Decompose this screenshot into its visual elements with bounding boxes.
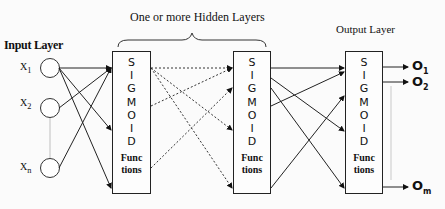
input-label-xn: Xn bbox=[20, 161, 31, 175]
letter: D bbox=[248, 135, 256, 148]
letter: M bbox=[359, 96, 369, 109]
hidden-layers-brace bbox=[118, 33, 266, 47]
letter: G bbox=[127, 82, 136, 95]
letter: O bbox=[360, 109, 369, 122]
letter: I bbox=[130, 122, 133, 135]
output-label-o1: O1 bbox=[412, 58, 429, 76]
letter: G bbox=[360, 82, 369, 95]
letter: D bbox=[360, 135, 368, 148]
letter: M bbox=[127, 96, 137, 109]
hidden-layer-1-box: S I G M O I D Functions bbox=[112, 51, 151, 194]
letter: D bbox=[127, 135, 135, 148]
input-label-x2: X2 bbox=[20, 97, 31, 111]
letter: S bbox=[128, 56, 135, 69]
letter: M bbox=[247, 96, 257, 109]
input-layer-label: Input Layer bbox=[4, 38, 63, 53]
letter: O bbox=[248, 109, 257, 122]
function-label: Functions bbox=[353, 152, 375, 176]
letter: G bbox=[248, 82, 257, 95]
letter: I bbox=[250, 122, 253, 135]
letter: I bbox=[362, 69, 365, 82]
letter: I bbox=[362, 122, 365, 135]
hidden-layer-2-box: S I G M O I D Functions bbox=[233, 51, 271, 194]
letter: I bbox=[130, 69, 133, 82]
letter: S bbox=[249, 56, 256, 69]
output-layer-box: S I G M O I D Functions bbox=[345, 51, 383, 194]
output-layer-label: Output Layer bbox=[336, 23, 395, 35]
hidden-layers-title: One or more Hidden Layers bbox=[130, 10, 265, 25]
input-label-x1: X1 bbox=[20, 61, 31, 75]
function-label: Functions bbox=[241, 152, 263, 176]
output-label-o2: O2 bbox=[412, 74, 429, 92]
letter: I bbox=[250, 69, 253, 82]
letter: S bbox=[361, 56, 368, 69]
output-label-om: Om bbox=[412, 178, 431, 196]
letter: O bbox=[127, 109, 136, 122]
function-label: Functions bbox=[121, 152, 143, 176]
